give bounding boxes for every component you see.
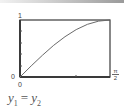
- caption-rhs-sub: 2: [37, 99, 41, 107]
- plot-frame: [20, 20, 110, 77]
- chart-caption: y1=y2: [8, 90, 41, 107]
- caption-lhs-sub: 1: [14, 99, 18, 107]
- y-max-label: 1: [18, 12, 22, 19]
- sine-curve: [20, 20, 110, 77]
- x-origin-label: 0: [18, 81, 22, 88]
- x-max-numerator: π: [112, 68, 119, 75]
- x-max-denominator: 2: [114, 75, 117, 81]
- caption-equals: =: [21, 90, 28, 105]
- y-origin-label: 0: [11, 73, 15, 80]
- x-max-label: π 2: [112, 68, 119, 81]
